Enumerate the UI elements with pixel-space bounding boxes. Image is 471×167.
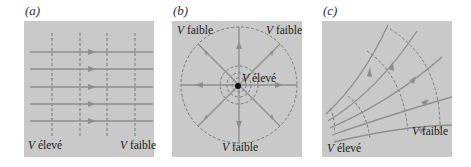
- panel-b-label: (b): [173, 3, 188, 19]
- point-charge-diagram: [172, 21, 302, 157]
- label-v-high: V élevé: [28, 139, 62, 151]
- field-arrows: [367, 62, 429, 134]
- label-v-low: V faible: [120, 139, 156, 151]
- point-charge: [235, 83, 241, 89]
- label-v-high: V élevé: [327, 142, 361, 154]
- label-v-low: V faible: [412, 125, 448, 137]
- uniform-field-diagram: [24, 21, 154, 157]
- label-v-low-top-left: V faible: [177, 24, 213, 36]
- panel-b-point-charge: V faible V faible V élevé V faible: [172, 21, 302, 157]
- panel-a-label: (a): [25, 3, 40, 19]
- panel-a-uniform-field: V élevé V faible: [24, 21, 154, 157]
- panel-c-diverging-field: V faible V élevé: [322, 21, 452, 157]
- equipotential-arcs: [330, 29, 440, 139]
- label-v-high-center: V élevé: [242, 72, 276, 84]
- label-v-low-top-right: V faible: [266, 24, 302, 36]
- label-v-low-bottom: V faible: [222, 141, 258, 153]
- panel-c-label: (c): [323, 3, 337, 19]
